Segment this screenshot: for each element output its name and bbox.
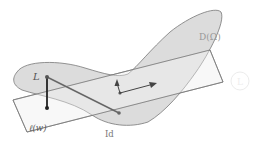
point-lower	[45, 106, 49, 110]
label-line-l-w: ℓ(w)	[29, 123, 46, 133]
diagram-canvas: L L D(Ω) ℓ(w) Id	[0, 0, 258, 146]
label-point-l: L	[32, 71, 40, 82]
label-point-id: Id	[105, 129, 114, 139]
point-l	[45, 75, 49, 79]
point-id	[117, 111, 121, 115]
ghost-marker-label: L	[237, 77, 243, 87]
label-region-d-omega: D(Ω)	[199, 32, 221, 42]
